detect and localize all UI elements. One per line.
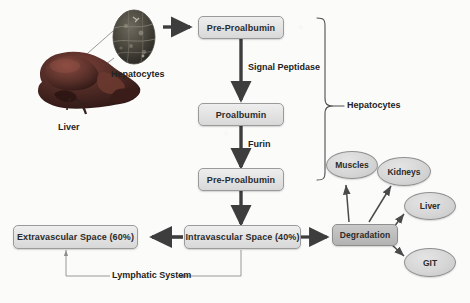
liver-caption: Liver [58, 122, 80, 132]
diagram-canvas: Liver Hepatocytes Pre-Proalbumin Proalbu… [0, 0, 470, 303]
node-degradation[interactable]: Degradation [332, 224, 398, 246]
organ-git[interactable]: GIT [404, 248, 456, 277]
hepatocyte-micrograph-icon [111, 8, 157, 66]
node-intravascular-space[interactable]: Intravascular Space (40%) [184, 225, 301, 249]
node-proalbumin[interactable]: Proalbumin [198, 103, 284, 126]
node-pre-proalbumin-mid[interactable]: Pre-Proalbumin [198, 168, 284, 191]
label-furin: Furin [248, 139, 271, 149]
organ-muscles[interactable]: Muscles [326, 151, 378, 179]
organ-kidneys[interactable]: Kidneys [377, 157, 431, 186]
label-signal-peptidase: Signal Peptidase [248, 62, 320, 72]
label-lymphatic-system: Lymphatic System [112, 270, 191, 280]
node-pre-proalbumin-top[interactable]: Pre-Proalbumin [198, 16, 284, 39]
organ-liver[interactable]: Liver [404, 192, 456, 220]
node-extravascular-space[interactable]: Extravascular Space (60%) [13, 225, 138, 249]
hepatocytes-caption: Hepatocytes [111, 69, 165, 79]
label-hepatocytes-group: Hepatocytes [347, 100, 401, 110]
